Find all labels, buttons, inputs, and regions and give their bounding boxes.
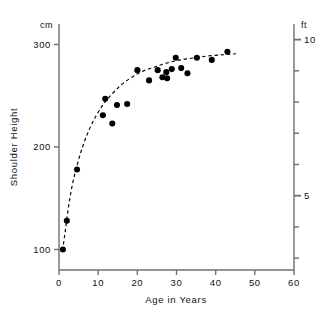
data-point — [114, 102, 120, 108]
y-axis-title: Shoulder Height — [8, 108, 19, 187]
data-point — [74, 167, 80, 173]
data-point — [169, 66, 175, 72]
data-point — [124, 101, 130, 107]
left-tick-label: 200 — [33, 141, 51, 152]
x-tick-label: 20 — [131, 277, 143, 288]
x-axis-title: Age in Years — [145, 294, 207, 305]
data-point — [184, 70, 190, 76]
x-tick-label: 50 — [249, 277, 261, 288]
data-point — [163, 69, 169, 75]
data-point — [155, 67, 161, 73]
data-point — [224, 49, 230, 55]
data-point — [194, 55, 200, 61]
data-point — [64, 218, 70, 224]
left-axis-unit-label: cm — [40, 20, 53, 30]
data-point — [173, 55, 179, 61]
data-point — [60, 246, 66, 252]
x-tick-label: 10 — [92, 277, 104, 288]
chart-figure: 100200300 510 0102030405060 cm ft Age in… — [0, 0, 332, 314]
shoulder-height-scatter-plot: 100200300 510 0102030405060 cm ft Age in… — [0, 0, 332, 314]
x-tick-label: 60 — [288, 277, 300, 288]
data-point — [102, 96, 108, 102]
x-tick-label: 30 — [171, 277, 183, 288]
data-point — [178, 65, 184, 71]
right-axis-unit-label: ft — [301, 20, 307, 30]
data-point — [109, 120, 115, 126]
x-tick-label: 0 — [56, 277, 62, 288]
data-point — [164, 75, 170, 81]
data-point — [146, 77, 152, 83]
data-point — [100, 112, 106, 118]
left-tick-label: 300 — [33, 39, 51, 50]
x-tick-label: 40 — [210, 277, 222, 288]
data-point — [134, 67, 140, 73]
right-tick-label: 10 — [304, 34, 316, 45]
data-point — [209, 57, 215, 63]
right-tick-label: 5 — [304, 190, 310, 201]
left-tick-label: 100 — [33, 244, 51, 255]
